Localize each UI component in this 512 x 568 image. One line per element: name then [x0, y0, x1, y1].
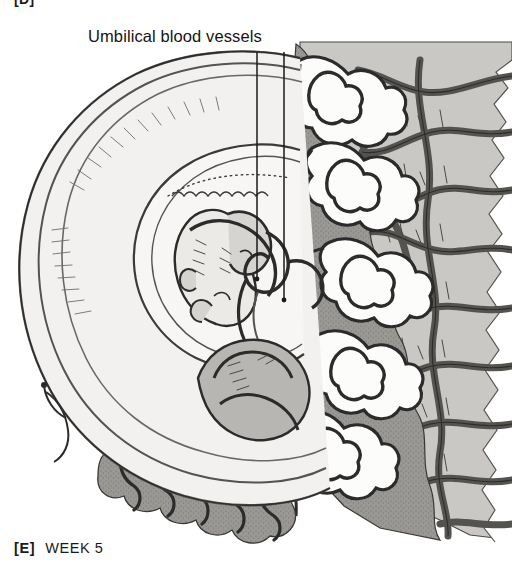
panel-tag-current: [E]	[14, 540, 35, 556]
caption-text: WEEK 5	[45, 540, 103, 556]
figure-root: [D] Umbilical blood vessels [E]WEEK 5	[0, 0, 512, 568]
figure-caption: [E]WEEK 5	[14, 540, 104, 556]
embryo-implantation-illustration	[0, 0, 512, 568]
panel-tag-previous: [D]	[14, 0, 35, 7]
label-umbilical-blood-vessels: Umbilical blood vessels	[88, 27, 262, 46]
